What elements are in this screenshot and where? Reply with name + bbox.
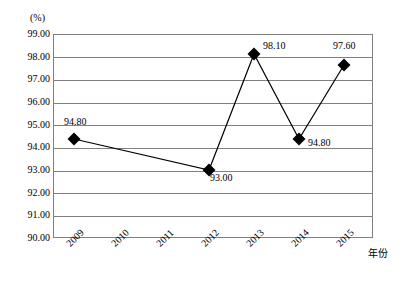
gridline-97 — [54, 80, 372, 81]
data-label-2009: 94.80 — [64, 116, 87, 127]
y-axis-tick-90: 90.00 — [0, 232, 50, 243]
gridline-98 — [54, 57, 372, 58]
gridline-94 — [54, 148, 372, 149]
y-axis-unit-label: (%) — [30, 12, 45, 23]
y-axis-tick-93: 93.00 — [0, 164, 50, 175]
y-axis-tick-92: 92.00 — [0, 187, 50, 198]
y-axis-tick-97: 97.00 — [0, 73, 50, 84]
data-label-2012: 93.00 — [210, 172, 233, 183]
y-axis-tick-98: 98.00 — [0, 51, 50, 62]
line-chart: (%) 99.00 98.00 97.00 96.00 95.00 94.00 … — [0, 0, 405, 281]
gridline-91 — [54, 216, 372, 217]
gridline-95 — [54, 125, 372, 126]
y-axis-tick-96: 96.00 — [0, 96, 50, 107]
gridline-92 — [54, 193, 372, 194]
gridline-96 — [54, 103, 372, 104]
plot-area — [53, 34, 373, 238]
data-label-2013: 98.10 — [263, 40, 286, 51]
data-label-2015: 97.60 — [333, 40, 356, 51]
x-axis-title: 年份 — [368, 245, 388, 260]
y-axis-tick-91: 91.00 — [0, 209, 50, 220]
y-axis-tick-95: 95.00 — [0, 119, 50, 130]
y-axis-tick-99: 99.00 — [0, 28, 50, 39]
data-label-2014: 94.80 — [308, 137, 331, 148]
y-axis-tick-94: 94.00 — [0, 141, 50, 152]
